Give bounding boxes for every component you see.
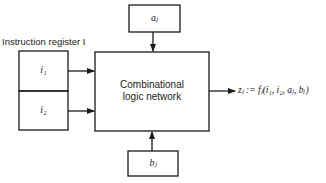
input-b-label: bⱼ	[128, 157, 178, 169]
register-cell-i1-label: i₁	[19, 64, 68, 76]
network-label-line2: logic network	[95, 91, 209, 103]
network-label-line1: Combinational	[95, 79, 209, 91]
register-label: Instruction register I	[2, 36, 85, 47]
input-a-label: aⱼ	[129, 12, 180, 24]
output-expression: zⱼ := fⱼ(i₁, i₂, aⱼ, bⱼ)	[238, 84, 309, 95]
register-cell-i2-label: i₂	[19, 104, 68, 116]
